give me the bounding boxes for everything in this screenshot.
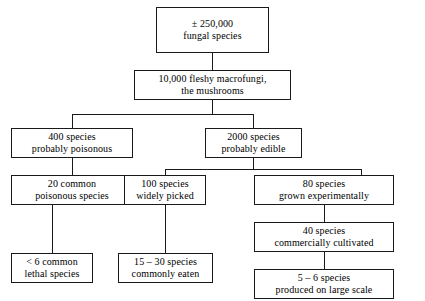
node-line: 10,000 fleshy macrofungi, <box>158 73 266 85</box>
node-line: 20 common <box>48 178 96 190</box>
edge-n6-n9 <box>165 205 166 253</box>
node-line: the mushrooms <box>181 85 244 97</box>
node-line: widely picked <box>136 190 194 202</box>
node-line: produced on large scale <box>276 284 373 296</box>
edge-n4-down <box>253 158 254 169</box>
node-fleshy-macrofungi: 10,000 fleshy macrofungi, the mushrooms <box>134 70 291 100</box>
edge-n7-n10 <box>324 205 325 222</box>
node-line: 5 – 6 species <box>298 272 351 284</box>
node-widely-picked: 100 species widely picked <box>124 175 206 205</box>
node-line: 2000 species <box>227 131 280 143</box>
node-large-scale-production: 5 – 6 species produced on large scale <box>254 269 394 299</box>
edge-n1-n2 <box>212 53 213 70</box>
node-line: lethal species <box>25 268 80 280</box>
edge-bus-n6-n7 <box>165 169 362 170</box>
node-line: 80 species <box>303 178 345 190</box>
node-common-poisonous: 20 common poisonous species <box>11 175 133 205</box>
node-commonly-eaten: 15 – 30 species commonly eaten <box>118 253 213 283</box>
node-line: 400 species <box>48 131 95 143</box>
edge-bus-n3-n4 <box>72 114 254 115</box>
node-total-fungal-species: ± 250,000 fungal species <box>156 7 269 53</box>
edge-n10-n11 <box>324 252 325 269</box>
node-line: commonly eaten <box>132 268 200 280</box>
node-line: 40 species <box>303 225 345 237</box>
node-lethal-species: < 6 common lethal species <box>11 253 93 283</box>
edge-bus-to-n3 <box>72 114 73 128</box>
node-commercially-cultivated: 40 species commercially cultivated <box>254 222 394 252</box>
node-line: fungal species <box>183 30 241 42</box>
node-line: probably poisonous <box>32 143 112 155</box>
edge-n5-n8 <box>52 205 53 253</box>
node-line: ± 250,000 <box>192 18 233 30</box>
node-probably-edible: 2000 species probably edible <box>205 128 302 158</box>
node-grown-experimentally: 80 species grown experimentally <box>254 175 394 205</box>
flowchart-diagram: ± 250,000 fungal species 10,000 fleshy m… <box>0 0 425 301</box>
edge-n2-down <box>212 100 213 114</box>
edge-bus-to-n4 <box>253 114 254 128</box>
node-line: 15 – 30 species <box>134 256 197 268</box>
node-line: commercially cultivated <box>274 237 373 249</box>
node-probably-poisonous: 400 species probably poisonous <box>11 128 133 158</box>
edge-n3-n5 <box>72 158 73 175</box>
node-line: 100 species <box>141 178 188 190</box>
node-line: grown experimentally <box>279 190 369 202</box>
node-line: poisonous species <box>35 190 109 202</box>
node-line: < 6 common <box>26 256 78 268</box>
node-line: probably edible <box>222 143 286 155</box>
